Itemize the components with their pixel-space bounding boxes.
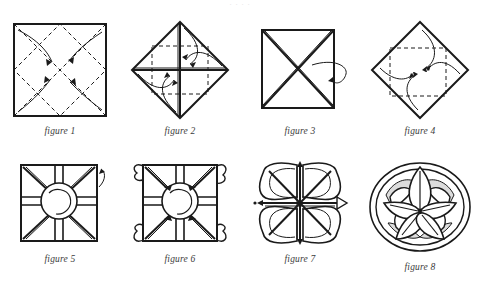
figure-grid: figure 1: [0, 9, 480, 291]
figure-6-drawing: [129, 157, 231, 249]
figure-cell-5: figure 5: [0, 145, 120, 291]
figure-caption-8: figure 8: [404, 262, 435, 272]
figure-cell-1: figure 1: [0, 9, 120, 145]
figure-caption-1: figure 1: [44, 126, 75, 136]
figure-cell-7: figure 7: [240, 145, 360, 291]
diagram-sheet: · · · ·: [0, 0, 480, 291]
figure-cell-2: figure 2: [120, 9, 240, 145]
figure-cell-6: figure 6: [120, 145, 240, 291]
figure-3-drawing: [248, 18, 352, 122]
top-text-fragment: · · · ·: [0, 0, 480, 9]
figure-2-drawing: [128, 18, 232, 122]
figure-caption-7: figure 7: [284, 254, 315, 264]
figure-1-drawing: [8, 18, 112, 122]
figure-caption-4: figure 4: [404, 126, 435, 136]
figure-caption-6: figure 6: [164, 254, 195, 264]
figure-caption-2: figure 2: [164, 126, 195, 136]
figure-cell-4: figure 4: [360, 9, 480, 145]
figure-7-drawing: [249, 157, 351, 249]
figure-caption-5: figure 5: [44, 254, 75, 264]
figure-5-drawing: [9, 157, 111, 249]
figure-cell-3: figure 3: [240, 9, 360, 145]
figure-4-drawing: [368, 18, 472, 122]
figure-caption-3: figure 3: [284, 126, 315, 136]
figure-cell-8: figure 8: [360, 145, 480, 291]
figure-8-drawing: [366, 157, 474, 257]
